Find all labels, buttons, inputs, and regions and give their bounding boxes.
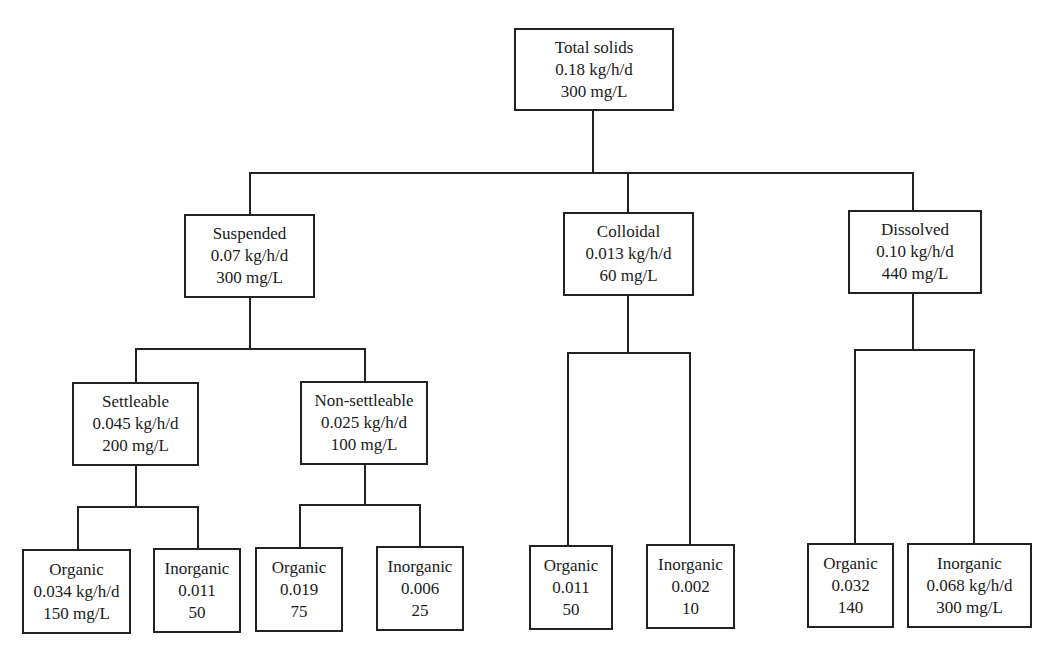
node-settleable: Settleable 0.045 kg/h/d 200 mg/L [72, 382, 199, 466]
connector-to-dissolved-inorganic [973, 349, 975, 544]
connector-to-colloidal [627, 172, 629, 213]
node-label: Colloidal [597, 221, 660, 243]
node-concentration: 140 [838, 597, 864, 619]
node-concentration: 100 mg/L [331, 434, 398, 456]
connector-colloidal-trunk [627, 295, 629, 353]
node-label: Settleable [102, 391, 169, 413]
node-concentration: 200 mg/L [102, 435, 169, 457]
node-nonsettleable-inorganic: Inorganic 0.006 25 [376, 546, 464, 631]
node-load: 0.10 kg/h/d [876, 241, 953, 263]
node-load: 0.011 [178, 580, 216, 602]
connector-to-settleable [135, 348, 137, 383]
node-concentration: 300 mg/L [561, 81, 628, 103]
node-concentration: 50 [563, 599, 580, 621]
node-load: 0.032 [831, 575, 869, 597]
connector-settleable-trunk [135, 465, 137, 508]
connector-suspended-bus [135, 348, 366, 350]
node-colloidal-organic: Organic 0.011 50 [529, 545, 613, 630]
connector-level1-bus [249, 172, 914, 174]
connector-to-colloidal-inorganic [689, 352, 691, 545]
node-colloidal: Colloidal 0.013 kg/h/d 60 mg/L [563, 212, 694, 296]
connector-dissolved-bus [854, 349, 975, 351]
connector-non-settleable-trunk [364, 464, 366, 506]
node-label: Total solids [555, 37, 634, 59]
node-label: Inorganic [165, 558, 230, 580]
node-label: Dissolved [881, 219, 949, 241]
node-non-settleable: Non-settleable 0.025 kg/h/d 100 mg/L [300, 381, 428, 465]
connector-root-trunk [592, 110, 594, 174]
connector-to-settleable-inorganic [197, 506, 199, 549]
node-load: 0.18 kg/h/d [555, 59, 632, 81]
node-colloidal-inorganic: Inorganic 0.002 10 [646, 544, 735, 629]
node-settleable-organic: Organic 0.034 kg/h/d 150 mg/L [22, 549, 131, 634]
node-load: 0.006 [401, 578, 439, 600]
node-label: Inorganic [388, 556, 453, 578]
solids-classification-diagram: Total solids 0.18 kg/h/d 300 mg/L Suspen… [0, 0, 1059, 656]
node-concentration: 300 mg/L [216, 267, 283, 289]
node-dissolved-inorganic: Inorganic 0.068 kg/h/d 300 mg/L [907, 543, 1032, 628]
connector-to-nonsettleable-inorganic [419, 504, 421, 547]
node-label: Inorganic [658, 554, 723, 576]
connector-to-dissolved-organic [854, 349, 856, 544]
node-load: 0.045 kg/h/d [93, 413, 179, 435]
connector-dissolved-trunk [912, 293, 914, 351]
node-load: 0.011 [552, 577, 590, 599]
node-suspended: Suspended 0.07 kg/h/d 300 mg/L [184, 214, 315, 298]
connector-to-dissolved [912, 172, 914, 211]
connector-suspended-trunk [249, 297, 251, 350]
node-dissolved-organic: Organic 0.032 140 [807, 543, 894, 628]
connector-to-settleable-organic [77, 506, 79, 550]
node-settleable-inorganic: Inorganic 0.011 50 [153, 548, 241, 633]
node-label: Organic [544, 555, 598, 577]
node-concentration: 50 [189, 602, 206, 624]
connector-to-non-settleable [364, 348, 366, 382]
node-label: Inorganic [937, 553, 1002, 575]
node-label: Suspended [213, 223, 287, 245]
connector-non-settleable-bus [299, 504, 421, 506]
connector-to-suspended [249, 172, 251, 215]
node-concentration: 75 [291, 601, 308, 623]
node-label: Non-settleable [314, 390, 413, 412]
node-load: 0.019 [280, 579, 318, 601]
node-concentration: 440 mg/L [882, 263, 949, 285]
node-load: 0.002 [671, 576, 709, 598]
connector-to-nonsettleable-organic [299, 504, 301, 548]
node-concentration: 150 mg/L [43, 603, 110, 625]
node-dissolved: Dissolved 0.10 kg/h/d 440 mg/L [848, 210, 982, 294]
node-label: Organic [823, 553, 877, 575]
connector-settleable-bus [77, 506, 199, 508]
node-concentration: 10 [682, 598, 699, 620]
node-concentration: 60 mg/L [599, 265, 657, 287]
node-label: Organic [49, 559, 103, 581]
node-load: 0.013 kg/h/d [586, 243, 672, 265]
node-total-solids: Total solids 0.18 kg/h/d 300 mg/L [514, 28, 674, 111]
connector-colloidal-bus [567, 352, 691, 354]
connector-to-colloidal-organic [567, 352, 569, 546]
node-nonsettleable-organic: Organic 0.019 75 [255, 547, 343, 632]
node-concentration: 300 mg/L [936, 597, 1003, 619]
node-load: 0.034 kg/h/d [34, 581, 120, 603]
node-label: Organic [272, 557, 326, 579]
node-load: 0.068 kg/h/d [927, 575, 1013, 597]
node-load: 0.025 kg/h/d [321, 412, 407, 434]
node-load: 0.07 kg/h/d [211, 245, 288, 267]
node-concentration: 25 [412, 600, 429, 622]
